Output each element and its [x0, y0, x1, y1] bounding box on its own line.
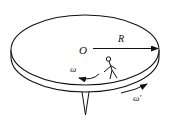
disk-axle-spindle [82, 92, 89, 115]
rotating-disk-diagram: O R ω ω' [0, 0, 176, 125]
omega-prime-label: ω' [133, 93, 142, 103]
center-label-O: O [79, 44, 87, 56]
omega-label: ω [70, 64, 76, 74]
radius-label-R: R [117, 33, 124, 44]
